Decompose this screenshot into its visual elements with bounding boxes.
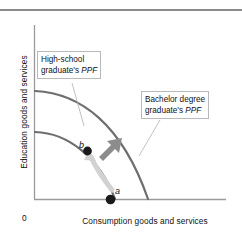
high-school-callout-line2-prefix: graduate's	[41, 66, 81, 75]
bachelor-ppf-curve	[35, 91, 148, 199]
x-axis-label: Consumption goods and services	[60, 216, 230, 226]
bachelor-callout-leader	[139, 120, 160, 156]
high-school-callout-line2: graduate's PPF	[41, 65, 97, 76]
outward-shift-block-arrow	[99, 138, 122, 161]
high-school-callout-ppf-abbrev: PPF	[81, 66, 97, 75]
bachelor-ppf-callout: Bachelor degree graduate's PPF	[141, 91, 209, 119]
high-school-callout-line1: High-school	[41, 54, 97, 65]
high-school-ppf-callout: High-school graduate's PPF	[37, 51, 101, 79]
movement-arrow-faint	[91, 157, 112, 190]
y-axis-label: Education goods and services	[19, 37, 29, 187]
bachelor-callout-line2-prefix: graduate's	[145, 106, 185, 115]
origin-label: 0	[22, 213, 27, 223]
point-b-marker	[83, 147, 92, 156]
point-a-marker	[106, 195, 116, 205]
bachelor-callout-line1: Bachelor degree	[145, 94, 205, 105]
bachelor-callout-line2: graduate's PPF	[145, 105, 205, 116]
point-a-label: a	[115, 186, 120, 196]
point-b-label: b	[79, 140, 84, 150]
ppf-figure: Education goods and services Consumption…	[0, 0, 242, 234]
high-school-ppf-curve	[35, 132, 115, 199]
bachelor-callout-ppf-abbrev: PPF	[185, 106, 201, 115]
